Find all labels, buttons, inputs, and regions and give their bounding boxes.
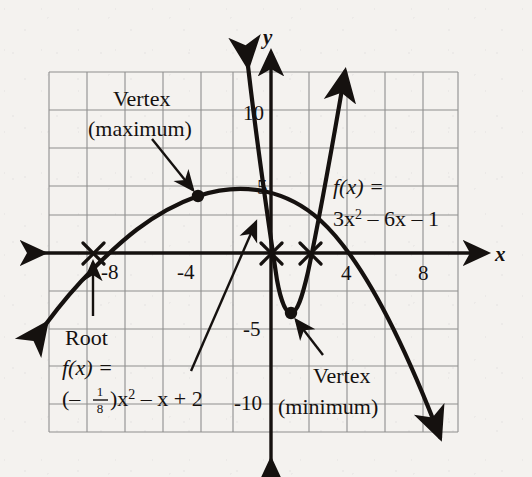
- formula-up-fx: f(x) =: [333, 174, 384, 199]
- formula-down-exponent: 2: [128, 387, 135, 402]
- annotation-vertex-min-line1: Vertex: [313, 363, 370, 388]
- graph-figure: x y -8 -4 4 8 10 5 -5 -10: [0, 0, 532, 477]
- x-tick-label-4: 4: [341, 261, 352, 285]
- formula-down-fraction-denominator: 8: [97, 401, 104, 416]
- vertex-max-point: [192, 190, 204, 202]
- formula-parabola-up-line1: f(x) =: [333, 174, 384, 199]
- x-axis-label: x: [494, 242, 506, 266]
- x-tick-label-neg4: -4: [177, 260, 195, 284]
- formula-parabola-down-line1: f(x) =: [62, 355, 113, 380]
- formula-up-term: 3x: [333, 206, 355, 231]
- formula-down-fx: f(x) =: [62, 355, 113, 380]
- vertex-min-point: [285, 307, 297, 319]
- y-tick-label-neg10: -10: [234, 391, 262, 415]
- formula-up-exponent: 2: [355, 207, 362, 222]
- formula-parabola-down-line2: (– 1 8 )x2 – x + 2: [62, 384, 203, 416]
- annotation-vertex-min-line2: (minimum): [278, 394, 378, 419]
- y-tick-label-neg5: -5: [243, 317, 261, 341]
- leader-arrow-vertex-max: [152, 139, 193, 190]
- annotation-vertex-max-line2: (maximum): [88, 116, 192, 141]
- formula-up-rest: – 6x – 1: [362, 206, 439, 231]
- coordinate-plane: x y -8 -4 4 8 10 5 -5 -10: [0, 0, 532, 477]
- y-axis-label: y: [260, 25, 273, 49]
- formula-parabola-up-line2: 3x2 – 6x – 1: [333, 206, 439, 231]
- formula-down-open: (–: [62, 386, 81, 411]
- annotation-vertex-max-line1: Vertex: [113, 86, 170, 111]
- annotation-root: Root: [65, 325, 108, 350]
- x-tick-label-8: 8: [418, 261, 429, 285]
- formula-down-rest: – x + 2: [135, 386, 202, 411]
- formula-down-fraction-numerator: 1: [97, 384, 104, 399]
- formula-down-close: )x2 – x + 2: [110, 386, 203, 411]
